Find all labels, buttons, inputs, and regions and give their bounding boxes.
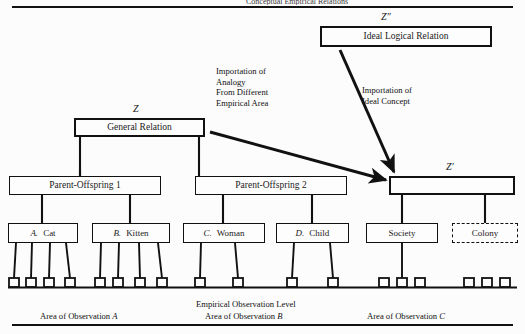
tag-z: Z [133, 103, 139, 114]
node-parent-offspring-1-label: Parent-Offspring 1 [49, 181, 120, 191]
tag-z-prime: Z′ [446, 161, 454, 172]
leaf-box-child[interactable]: D. Child [276, 223, 349, 243]
arrow-importation-of-ideal-concept [340, 50, 394, 172]
annotation-analogy-line-2: Analogy [216, 77, 268, 88]
tree-links-zprime [402, 195, 485, 223]
footer-area-of-observation-c: Area of Observation C [367, 311, 445, 321]
leaf-box-cat[interactable]: A. Cat [8, 223, 78, 243]
top-rule [12, 6, 513, 8]
node-general-relation-label: General Relation [107, 123, 172, 133]
footer-area-c-prefix: Area of Observation [367, 311, 439, 321]
running-head: Conceptual Empirical Relations [246, 0, 348, 5]
leaf-legs [14, 243, 402, 278]
arrow-importation-of-analogy [210, 132, 386, 180]
node-general-relation[interactable]: General Relation [74, 118, 205, 137]
leaf-label-cat: Cat [43, 229, 56, 238]
leaf-label-kitten: Kitten [126, 229, 149, 238]
leaf-label-child: Child [309, 229, 329, 238]
footer-area-b-prefix: Area of Observation [205, 311, 277, 321]
tree-links-left [80, 137, 199, 176]
tree-links-po2 [223, 195, 312, 223]
leaf-box-society[interactable]: Society [366, 223, 438, 243]
footer-area-c-letter: C [439, 311, 445, 321]
node-parent-offspring-2[interactable]: Parent-Offspring 2 [195, 176, 347, 195]
node-social-relation[interactable] [389, 176, 515, 195]
annotation-importation-of-ideal-concept: Importation of Ideal Concept [362, 85, 412, 106]
tree-links-po1 [42, 195, 130, 223]
leaf-box-colony[interactable]: Colony [452, 223, 518, 243]
leaf-label-colony: Colony [472, 229, 499, 238]
footer-area-a-prefix: Area of Observation [40, 311, 112, 321]
annotation-importation-of-analogy: Importation of Analogy From Different Em… [216, 66, 268, 108]
footer-empirical-observation-level: Empirical Observation Level [196, 299, 296, 309]
tag-z-double-prime: Z″ [381, 11, 391, 22]
footer-area-of-observation-a: Area of Observation A [40, 311, 118, 321]
node-ideal-logical-relation[interactable]: Ideal Logical Relation [320, 26, 492, 47]
leaf-letter-d: D. [296, 229, 310, 238]
leaf-label-society: Society [389, 229, 416, 238]
annotation-ideal-line-2: Ideal Concept [362, 96, 412, 107]
leaf-letter-c: C. [203, 229, 216, 238]
footer-area-b-letter: B [277, 311, 282, 321]
annotation-analogy-line-4: Empirical Area [216, 98, 268, 109]
node-ideal-logical-relation-label: Ideal Logical Relation [364, 32, 449, 42]
node-parent-offspring-1[interactable]: Parent-Offspring 1 [9, 176, 161, 195]
annotation-ideal-line-1: Importation of [362, 85, 412, 96]
figure-canvas: Conceptual Empirical Relations Z″ Ideal … [0, 0, 525, 334]
observation-ticks [9, 278, 510, 287]
leaf-label-woman: Woman [217, 229, 245, 238]
leaf-box-kitten[interactable]: B. Kitten [92, 223, 170, 243]
leaf-letter-b: B. [113, 229, 126, 238]
leaf-box-woman[interactable]: C. Woman [183, 223, 265, 243]
footer-area-a-letter: A [112, 311, 117, 321]
node-parent-offspring-2-label: Parent-Offspring 2 [235, 181, 306, 191]
annotation-analogy-line-1: Importation of [216, 66, 268, 77]
annotation-analogy-line-3: From Different [216, 87, 268, 98]
leaf-letter-a: A. [30, 229, 43, 238]
footer-area-of-observation-b: Area of Observation B [205, 311, 283, 321]
